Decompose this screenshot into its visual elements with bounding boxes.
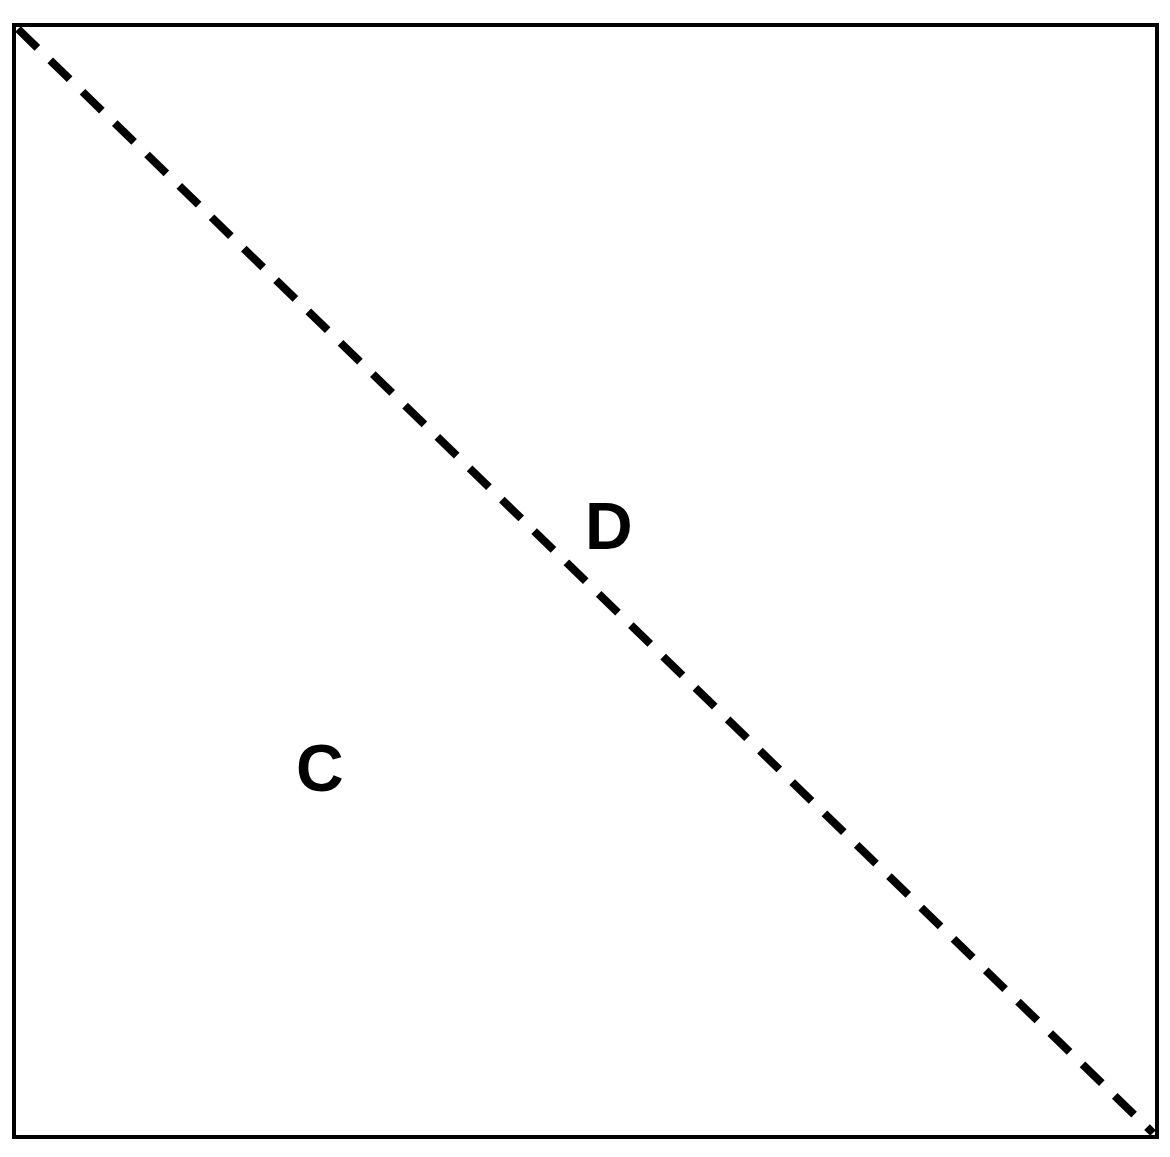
- region-label-d: D: [585, 489, 633, 563]
- figure-canvas: D C: [0, 0, 1170, 1157]
- region-label-c: C: [296, 731, 344, 805]
- diagram-svg: D C: [0, 0, 1170, 1157]
